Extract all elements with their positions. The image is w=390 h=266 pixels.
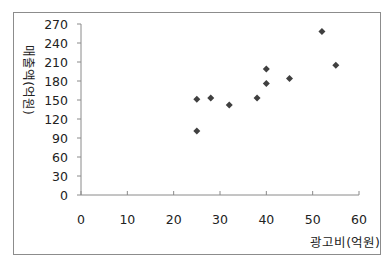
data-point-marker [263,80,270,87]
data-point-marker [193,128,200,135]
x-tick-label: 0 [77,212,85,227]
data-point-marker [193,96,200,103]
y-tick-label: 210 [44,55,68,70]
y-tick-label: 240 [44,36,68,51]
x-tick-label: 20 [166,212,182,227]
data-point-marker [332,62,339,69]
y-axis-ticks: 0306090120150180210240270 [44,17,81,203]
x-axis-title: 광고비(억원) [310,235,380,250]
y-axis-title: 매출액(억원) [21,45,36,115]
scatter-chart: 0102030405060 0306090120150180210240270 … [0,0,390,266]
y-tick-label: 60 [52,150,68,165]
data-points [193,28,339,134]
axes [81,24,359,195]
x-tick-label: 40 [258,212,274,227]
data-point-marker [263,65,270,72]
data-point-marker [207,95,214,102]
x-tick-label: 60 [351,212,367,227]
y-tick-label: 30 [52,169,68,184]
x-axis-ticks: 0102030405060 [77,191,367,227]
data-point-marker [226,102,233,109]
x-tick-label: 10 [119,212,135,227]
data-point-marker [286,75,293,82]
y-tick-label: 0 [60,188,68,203]
y-tick-label: 270 [44,17,68,32]
y-tick-label: 150 [44,93,68,108]
x-tick-label: 50 [305,212,321,227]
y-tick-label: 180 [44,74,68,89]
data-point-marker [254,95,261,102]
data-point-marker [318,28,325,35]
x-tick-label: 30 [212,212,228,227]
y-tick-label: 90 [52,131,68,146]
y-tick-label: 120 [44,112,68,127]
